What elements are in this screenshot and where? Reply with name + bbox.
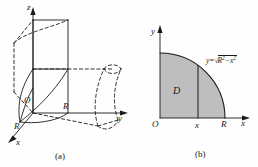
panel-a-y-radius-label: R <box>63 102 69 111</box>
z-axis-arrowhead <box>30 7 35 15</box>
right-cylinder-left-edge <box>95 69 104 126</box>
radicand-x-exponent: 2 <box>233 55 236 61</box>
region-d-label: D <box>173 86 180 96</box>
top-surface-arc <box>14 20 68 43</box>
panel-a-y-axis-label: y <box>118 114 122 123</box>
panel-a-3d-solid: z y x O R R (a) <box>0 0 129 167</box>
curve-equation-label: y=√R2−x2 <box>206 57 237 65</box>
right-cylinder-top-arc-back <box>104 65 121 69</box>
panel-a-caption: (a) <box>55 151 65 161</box>
panel-a-x-radius-label: R <box>14 122 20 131</box>
panel-b-drawing <box>129 0 258 167</box>
radicand-group: R2−x2 <box>218 55 238 65</box>
base-curve <box>20 113 68 123</box>
back-top-left-connector <box>14 20 33 43</box>
panel-a-x-axis-label: x <box>16 138 20 147</box>
right-cylinder-top-arc-front <box>104 69 121 74</box>
panel-a-origin-label: O <box>24 96 31 105</box>
panel-b-y-arrowhead <box>157 25 162 33</box>
panel-b-radius-label: R <box>221 120 227 129</box>
panel-b-y-axis-label: y <box>151 27 155 36</box>
panel-a-z-axis-label: z <box>27 3 31 12</box>
panel-b-quarter-disk: y x O x R y=√R2−x2 D (b) <box>129 0 258 167</box>
panel-b-x-axis-label: x <box>241 119 245 128</box>
panel-b-x-tick-label: x <box>195 121 199 130</box>
panel-b-origin-label: O <box>152 120 159 129</box>
panel-b-caption: (b) <box>195 149 206 159</box>
figure-container: z y x O R R (a) y <box>0 0 258 167</box>
